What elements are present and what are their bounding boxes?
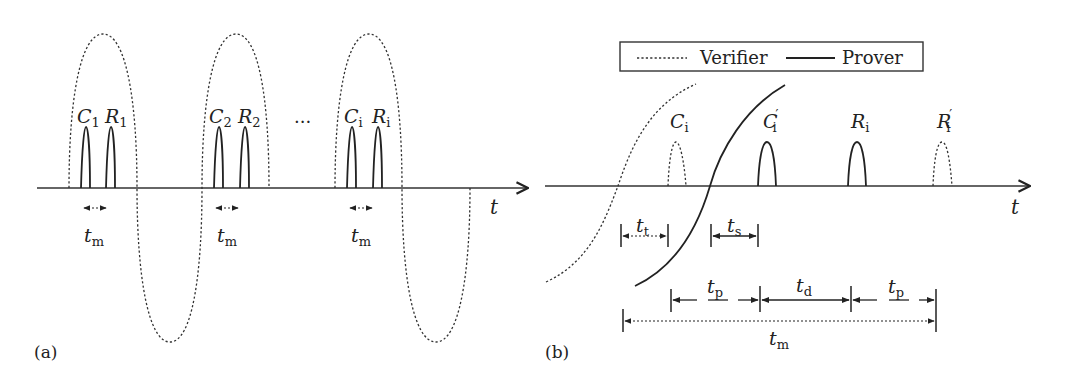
response-pulse-verifier: [933, 142, 952, 186]
tp-label-1: tp: [707, 275, 723, 300]
legend: Verifier Prover: [620, 42, 923, 71]
tt-label: tt: [636, 214, 650, 239]
response-label-verifier: R′i: [936, 107, 952, 135]
challenge-pulse-i: [347, 127, 356, 188]
td-label: td: [796, 274, 812, 299]
interval-tp-td-tp: tp td tp: [671, 274, 936, 332]
challenge-label-1: C1: [77, 105, 100, 130]
verifier-legend-label: Verifier: [699, 47, 768, 68]
response-label-prover: Ri: [850, 110, 869, 135]
tm-label-i: tm: [351, 224, 371, 249]
prover-legend-label: Prover: [842, 47, 903, 68]
response-label-i: Ri: [371, 105, 390, 130]
tm-label-2: tm: [217, 224, 237, 249]
pulse-group-2: C2 R2 tm: [209, 105, 261, 249]
pulse-group-1: C1 R1 tm: [77, 105, 128, 249]
challenge-label-i: Ci: [344, 105, 363, 130]
challenge-pulse-prover: [758, 142, 776, 186]
response-label-2: R2: [237, 105, 261, 130]
challenge-pulse-2: [214, 127, 223, 188]
response-pulse-2: [240, 127, 249, 188]
response-pulse-i: [373, 127, 382, 188]
ellipsis: ...: [294, 106, 311, 127]
panel-label-a: (a): [34, 342, 57, 362]
tp-label-2: tp: [888, 275, 904, 300]
panel-a: C1 R1 tm C2 R2 tm ... Ci Ri tm t (a): [34, 34, 528, 362]
tm-label-b: tm: [769, 327, 789, 352]
distance-bounding-diagram: C1 R1 tm C2 R2 tm ... Ci Ri tm t (a): [0, 0, 1083, 381]
challenge-label-2: C2: [209, 105, 232, 130]
time-axis-label-a: t: [490, 195, 499, 219]
pulse-group-i: Ci Ri tm: [344, 105, 390, 249]
challenge-pulse-verifier: [668, 142, 686, 186]
panel-label-b: (b): [545, 342, 569, 362]
interval-ts: ts: [711, 214, 758, 247]
response-pulse-1: [106, 127, 115, 188]
challenge-pulse-1: [81, 127, 90, 188]
interval-tm: tm: [623, 309, 934, 352]
challenge-label-verifier: Ci: [670, 110, 689, 135]
interval-tt: tt: [621, 214, 668, 247]
response-pulse-prover: [848, 142, 866, 186]
ts-label: ts: [727, 214, 741, 239]
challenge-label-prover: C′i: [763, 107, 779, 135]
response-label-1: R1: [104, 105, 128, 130]
tm-label-1: tm: [84, 224, 104, 249]
time-axis-label-b: t: [1011, 195, 1020, 219]
panel-b: Verifier Prover Ci C′i Ri R′i t tt: [545, 42, 1030, 362]
